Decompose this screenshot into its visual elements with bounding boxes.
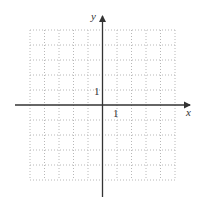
y-unit-label: 1 bbox=[94, 85, 100, 97]
x-axis-label: x bbox=[185, 106, 191, 118]
coordinate-plane: x y 1 1 bbox=[0, 0, 202, 206]
x-unit-label: 1 bbox=[113, 107, 119, 119]
y-axis-label: y bbox=[90, 10, 96, 22]
